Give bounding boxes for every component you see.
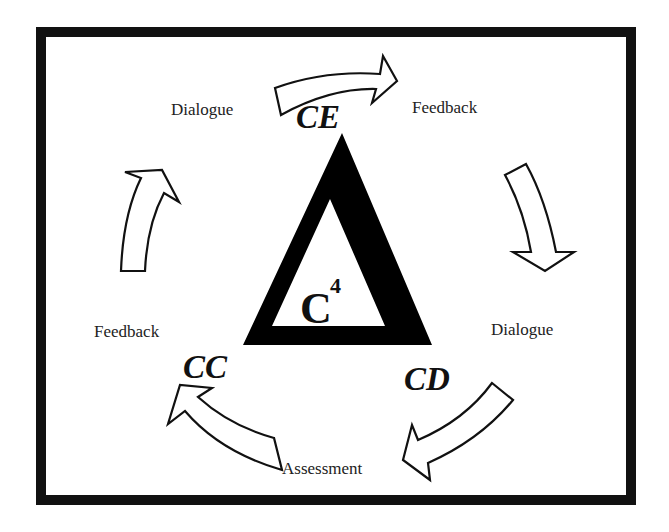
c4-cycle-diagram: C 4 CE CD CC Dialogue Feedback Dialogue … bbox=[0, 0, 669, 532]
node-ce: CE bbox=[296, 99, 340, 135]
center-superscript: 4 bbox=[330, 273, 341, 298]
node-cc: CC bbox=[183, 349, 228, 385]
center-label: C bbox=[300, 284, 332, 333]
label-top-right-feedback: Feedback bbox=[412, 98, 478, 117]
center-triangle-icon bbox=[243, 133, 432, 345]
label-bottom-assessment: Assessment bbox=[282, 459, 363, 478]
arrow-left-up-icon bbox=[121, 170, 179, 271]
node-cd: CD bbox=[404, 361, 450, 397]
label-left-feedback: Feedback bbox=[94, 322, 160, 341]
arrow-bottom-left-icon bbox=[168, 385, 282, 470]
arrow-bottom-right-icon bbox=[403, 383, 513, 480]
arrow-right-down-icon bbox=[505, 164, 574, 271]
label-right-dialogue: Dialogue bbox=[491, 320, 553, 339]
label-top-left-dialogue: Dialogue bbox=[171, 100, 233, 119]
